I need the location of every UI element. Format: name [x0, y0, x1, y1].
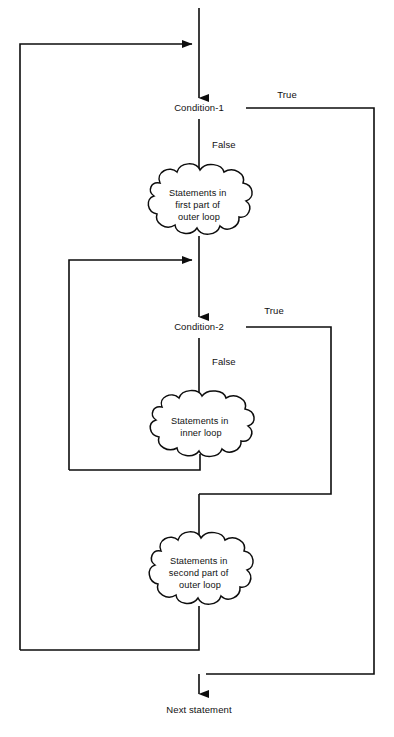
edge-process3-to-outer-back [20, 606, 199, 650]
process-cloud-3-line-1: Statements in [170, 556, 227, 566]
process-cloud-1-line-3: outer loop [178, 212, 220, 222]
edge-process2-to-inner-back [69, 454, 200, 470]
condition-2-label: Condition-2 [174, 321, 224, 332]
edge-label-condition2-true: True [264, 305, 284, 316]
process-cloud-1-line-1: Statements in [169, 188, 226, 198]
process-cloud-2-line-1: Statements in [171, 416, 228, 426]
edge-label-condition1-false: False [212, 139, 236, 150]
process-cloud-1-line-2: first part of [175, 200, 220, 210]
flowchart-svg: Condition-1 Condition-2 True False True … [0, 0, 394, 737]
terminal-label: Next statement [166, 704, 232, 715]
process-cloud-3-line-2: second part of [169, 568, 229, 578]
process-cloud-1 [148, 164, 252, 234]
process-cloud-3-line-3: outer loop [179, 580, 221, 590]
flowchart-canvas: Condition-1 Condition-2 True False True … [0, 0, 394, 737]
condition-1-label: Condition-1 [174, 102, 224, 113]
edge-label-condition2-false: False [212, 356, 236, 367]
process-cloud-2-line-2: inner loop [180, 428, 221, 438]
edge-label-condition1-true: True [277, 89, 297, 100]
